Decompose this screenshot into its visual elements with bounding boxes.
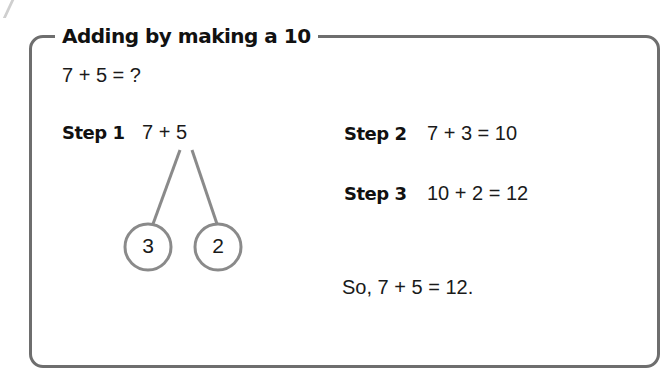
bond-line-left [153,150,180,224]
bond-line-right [192,150,217,224]
bond-part-2: 2 [203,234,233,258]
step3-expression: 10 + 2 = 12 [427,182,528,205]
conclusion-text: So, 7 + 5 = 12. [342,276,473,299]
step2-label: Step 2 [344,123,406,144]
step3-label: Step 3 [344,183,406,204]
number-bond-diagram [0,0,671,390]
step2-expression: 7 + 3 = 10 [427,122,517,145]
bond-part-3: 3 [133,234,163,258]
